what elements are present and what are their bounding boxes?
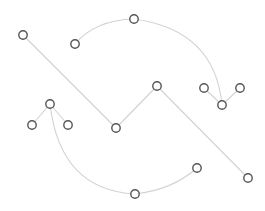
node-h[interactable] (112, 124, 120, 132)
node-g[interactable] (153, 82, 161, 90)
edge-b-c (75, 19, 134, 44)
edge-h-g (116, 86, 157, 128)
node-l[interactable] (131, 190, 139, 198)
node-f[interactable] (218, 101, 226, 109)
node-i[interactable] (46, 100, 54, 108)
node-k[interactable] (64, 121, 72, 129)
edge-g-n (157, 86, 248, 178)
edge-i-l (50, 104, 135, 194)
node-e[interactable] (236, 84, 244, 92)
edge-a-h (23, 35, 116, 128)
nodes-layer (19, 15, 252, 198)
node-c[interactable] (130, 15, 138, 23)
edges-layer (23, 19, 248, 194)
node-d[interactable] (200, 84, 208, 92)
node-a[interactable] (19, 31, 27, 39)
node-b[interactable] (71, 40, 79, 48)
node-m[interactable] (193, 164, 201, 172)
node-n[interactable] (244, 174, 252, 182)
graph-canvas (0, 0, 265, 211)
node-j[interactable] (28, 121, 36, 129)
edge-l-m (135, 168, 197, 194)
